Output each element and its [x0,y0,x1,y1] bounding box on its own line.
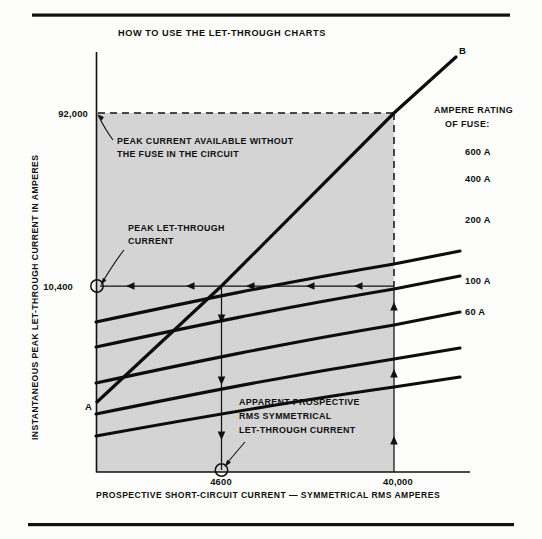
y-axis-title: INSTANTANEOUS PEAK LET-THROUGH CURRENT I… [30,155,40,440]
annotation-peak-available-line1: PEAK CURRENT AVAILABLE WITHOUT [117,136,294,146]
legend-item-600a: 600 A [465,147,491,157]
annotation-apparent-line2: RMS SYMMETRICAL [239,411,332,421]
annotation-peak-available-line2: THE FUSE IN THE CIRCUIT [117,149,239,159]
page-title: HOW TO USE THE LET-THROUGH CHARTS [118,28,326,38]
annotation-apparent-line3: LET-THROUGH CURRENT [239,425,356,435]
y-tick-label-92000: 92,000 [58,108,88,119]
bottom-divider-rule [28,523,514,526]
endpoint-label-b: B [459,45,466,56]
let-through-chart-figure: HOW TO USE THE LET-THROUGH CHARTS INSTAN… [0,0,542,539]
annotation-peak-let-through-line2: CURRENT [128,236,174,246]
y-tick-label-10400: 10,400 [43,281,73,292]
legend-item-100a: 100 A [465,276,491,286]
x-tick-label-4600: 4600 [210,476,232,487]
legend-heading-line1: AMPERE RATING [434,105,513,115]
legend-item-400a: 400 A [465,174,491,184]
top-divider-rule [32,14,510,17]
x-tick-label-40000: 40,000 [383,476,413,487]
annotation-apparent-line1: APPARENT PROSPECTIVE [239,397,360,407]
legend-item-200a: 200 A [465,215,491,225]
endpoint-label-a: A [85,401,92,412]
legend-item-60a: 60 A [465,307,485,317]
legend-heading-line2: OF FUSE: [445,119,490,129]
x-axis-title: PROSPECTIVE SHORT-CIRCUIT CURRENT — SYMM… [96,490,440,500]
annotation-peak-let-through-line1: PEAK LET-THROUGH [128,223,225,233]
